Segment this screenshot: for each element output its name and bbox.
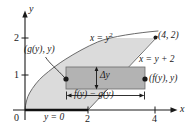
width-arrow-right [140,93,145,97]
left-point-label: (g(y), y) [24,45,55,55]
figure-canvas [0,0,193,132]
origin-label: 0 [14,113,19,123]
x-axis-label: x [180,104,184,114]
line-equation-label: x = y + 2 [139,55,175,65]
width-expression-label: f(y) − g(y) [74,90,114,100]
parabola-equation-text: x = y [90,33,110,43]
y-axis-label: y [29,4,33,14]
y-axis-arrowhead [22,11,27,18]
point-marker-right-f-of-y [142,76,147,81]
y-tick-label-1: 1 [14,70,19,80]
baseline-label: y = 0 [44,113,64,123]
x-axis-arrowhead [171,107,178,112]
x-tick-label-2: 2 [85,114,90,124]
point-marker-left-g-of-y [63,76,68,81]
parabola-equation-label: x = y2 [90,32,113,44]
point-marker-intersection-4-2 [154,36,158,40]
calculus-region-figure: y x 0 1 2 2 4 x = y2 x = y + 2 (4, 2) (g… [0,0,193,132]
y-tick-label-2: 2 [14,33,19,43]
right-point-label: (f(y), y) [149,74,177,84]
intersection-point-label: (4, 2) [158,31,179,41]
parabola-exponent: 2 [110,31,113,38]
x-tick-label-4: 4 [152,114,157,124]
delta-y-label: Δy [100,71,110,81]
